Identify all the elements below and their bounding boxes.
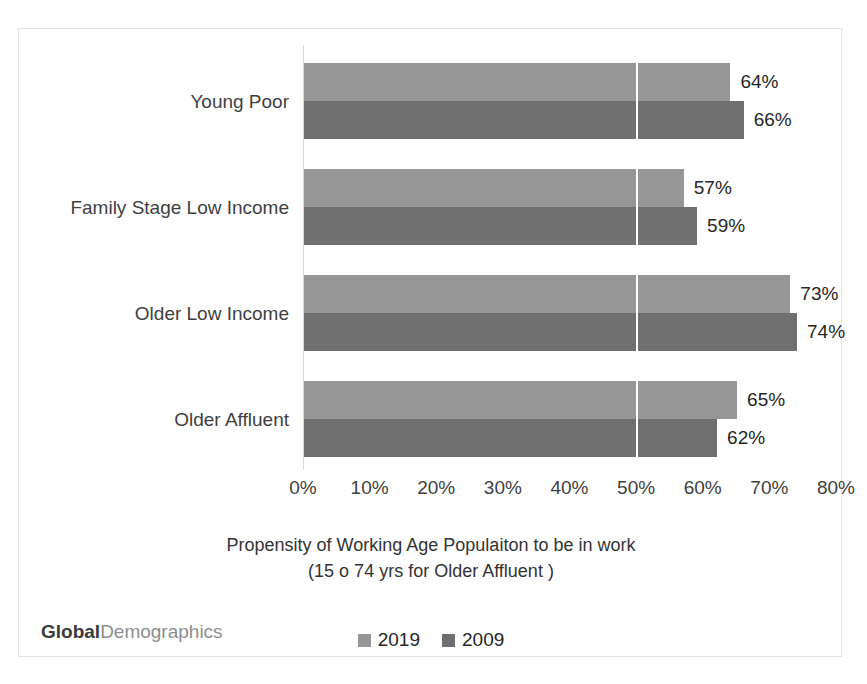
legend-label: 2019 <box>378 629 420 651</box>
bar-row: 57% <box>304 169 837 207</box>
legend-item-2009[interactable]: 2009 <box>442 629 504 651</box>
x-tick-label: 20% <box>406 477 466 499</box>
x-tick-label: 80% <box>806 477 866 499</box>
bar-data-label: 73% <box>800 283 838 305</box>
bar-row: 59% <box>304 207 837 245</box>
watermark-light-text: Demographics <box>100 621 223 642</box>
bar-2009-young-poor[interactable] <box>304 101 744 139</box>
bar-groups: 64%66%57%59%73%74%65%62% <box>304 45 837 470</box>
category-label-older-affluent: Older Affluent <box>39 409 289 431</box>
category-label-older-low-income: Older Low Income <box>39 303 289 325</box>
bar-row: 62% <box>304 419 837 457</box>
bar-2019-older-affluent[interactable] <box>304 381 737 419</box>
bar-2019-young-poor[interactable] <box>304 63 730 101</box>
bar-row: 64% <box>304 63 837 101</box>
bar-group: 64%66% <box>304 63 837 140</box>
x-tick-label: 50% <box>606 477 666 499</box>
category-label-young-poor: Young Poor <box>39 91 289 113</box>
legend-swatch-icon <box>358 634 371 647</box>
x-axis-tick-labels: 0%10%20%30%40%50%60%70%80% <box>303 477 843 505</box>
chart-title-line-1: Propensity of Working Age Populaiton to … <box>19 532 843 558</box>
legend-item-2019[interactable]: 2019 <box>358 629 420 651</box>
bar-data-label: 64% <box>740 71 778 93</box>
bar-group: 57%59% <box>304 169 837 246</box>
bar-row: 66% <box>304 101 837 139</box>
x-tick-label: 70% <box>739 477 799 499</box>
watermark-bold-text: Global <box>41 621 100 642</box>
bar-group: 73%74% <box>304 275 837 352</box>
x-tick-label: 30% <box>473 477 533 499</box>
category-axis-labels: Young PoorFamily Stage Low IncomeOlder L… <box>39 45 297 470</box>
category-label-family-stage-low-income: Family Stage Low Income <box>39 197 289 219</box>
legend-label: 2009 <box>462 629 504 651</box>
x-tick-label: 40% <box>540 477 600 499</box>
bar-data-label: 74% <box>807 321 845 343</box>
bar-data-label: 65% <box>747 389 785 411</box>
bar-group: 65%62% <box>304 381 837 458</box>
x-tick-label: 60% <box>673 477 733 499</box>
bar-2009-older-low-income[interactable] <box>304 313 797 351</box>
bar-data-label: 57% <box>694 177 732 199</box>
bar-row: 65% <box>304 381 837 419</box>
legend-swatch-icon <box>442 634 455 647</box>
bar-data-label: 66% <box>754 109 792 131</box>
plot-area: 64%66%57%59%73%74%65%62% <box>303 45 837 470</box>
x-tick-label: 0% <box>273 477 333 499</box>
chart-title-line-2: (15 o 74 yrs for Older Affluent ) <box>19 558 843 584</box>
chart-title: Propensity of Working Age Populaiton to … <box>19 532 843 584</box>
x-tick-label: 10% <box>340 477 400 499</box>
bar-data-label: 62% <box>727 427 765 449</box>
watermark-globaldemographics: GlobalDemographics <box>41 621 223 643</box>
bar-2009-older-affluent[interactable] <box>304 419 717 457</box>
chart-frame: Young PoorFamily Stage Low IncomeOlder L… <box>18 28 842 657</box>
bar-row: 73% <box>304 275 837 313</box>
bar-data-label: 59% <box>707 215 745 237</box>
bar-2019-older-low-income[interactable] <box>304 275 790 313</box>
bar-row: 74% <box>304 313 837 351</box>
bar-2019-family-stage-low-income[interactable] <box>304 169 684 207</box>
gridline-50-percent <box>636 45 638 470</box>
